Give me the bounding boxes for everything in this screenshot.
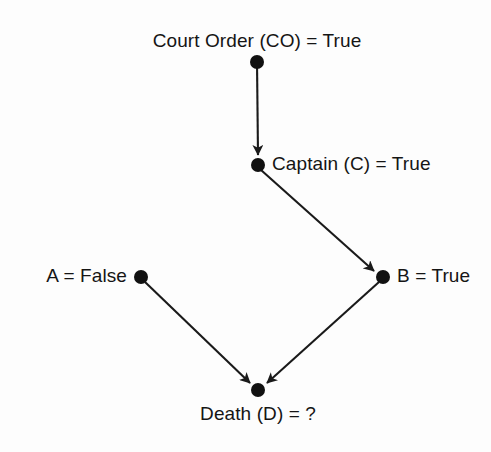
edge-court-order-to-captain [257,62,258,155]
node-court-order[interactable] [250,55,264,69]
node-label-captain: Captain (C) = True [272,153,431,175]
node-death[interactable] [251,383,265,397]
edges-group [145,62,379,383]
nodes-group [134,55,390,397]
node-label-court-order: Court Order (CO) = True [153,30,362,52]
graph-canvas [0,0,491,452]
node-captain[interactable] [251,158,265,172]
node-label-b: B = True [397,265,470,287]
edge-a-to-death [145,282,250,383]
node-a[interactable] [134,270,148,284]
node-label-death: Death (D) = ? [200,403,316,425]
causal-diagram: Court Order (CO) = True Captain (C) = Tr… [0,0,491,452]
edge-b-to-death [267,282,379,383]
node-b[interactable] [376,270,390,284]
edge-captain-to-b [261,170,374,271]
node-label-a: A = False [46,265,127,287]
